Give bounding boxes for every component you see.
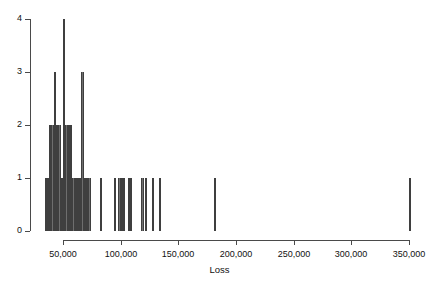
x-tick-250000	[294, 240, 295, 245]
y-tick-1	[25, 178, 30, 179]
plot-area: 01234 50,000100,000150,000200,000250,000…	[0, 0, 439, 284]
histogram-bar	[141, 178, 143, 231]
y-tick-4	[25, 19, 30, 20]
x-tick-350000	[409, 240, 410, 245]
histogram-bar	[145, 178, 147, 231]
y-tick-label-4: 4	[4, 14, 22, 23]
histogram-bar	[409, 178, 411, 231]
x-tick-label-350000: 350,000	[379, 249, 439, 259]
y-tick-label-text: 4	[8, 14, 22, 23]
y-tick-label-0: 0	[4, 226, 22, 235]
histogram-bar	[152, 178, 154, 231]
histogram-bar	[100, 178, 102, 231]
y-tick-label-text: 3	[8, 67, 22, 76]
x-tick-50000	[63, 240, 64, 245]
y-tick-3	[25, 72, 30, 73]
histogram-bar	[88, 178, 90, 231]
x-tick-label-250000: 250,000	[264, 249, 324, 259]
histogram-bar	[159, 178, 161, 231]
x-tick-200000	[236, 240, 237, 245]
histogram-bar	[214, 178, 216, 231]
histogram-bar	[114, 178, 116, 231]
x-tick-label-50000: 50,000	[33, 249, 93, 259]
histogram-bar	[123, 178, 125, 231]
x-tick-100000	[121, 240, 122, 245]
x-tick-label-300000: 300,000	[321, 249, 381, 259]
y-tick-label-text: 0	[8, 226, 22, 235]
histogram-bar	[130, 178, 132, 231]
y-tick-label-text: 1	[8, 173, 22, 182]
x-tick-label-150000: 150,000	[148, 249, 208, 259]
y-tick-0	[25, 231, 30, 232]
y-tick-2	[25, 125, 30, 126]
y-tick-label-2: 2	[4, 120, 22, 129]
x-tick-label-200000: 200,000	[206, 249, 266, 259]
x-tick-300000	[351, 240, 352, 245]
y-tick-label-1: 1	[4, 173, 22, 182]
y-tick-label-text: 2	[8, 120, 22, 129]
x-tick-label-100000: 100,000	[91, 249, 151, 259]
y-tick-label-3: 3	[4, 67, 22, 76]
y-axis-spine	[30, 19, 31, 231]
x-axis-title: Loss	[0, 264, 439, 275]
histogram-figure: 01234 50,000100,000150,000200,000250,000…	[0, 0, 439, 284]
x-tick-150000	[178, 240, 179, 245]
